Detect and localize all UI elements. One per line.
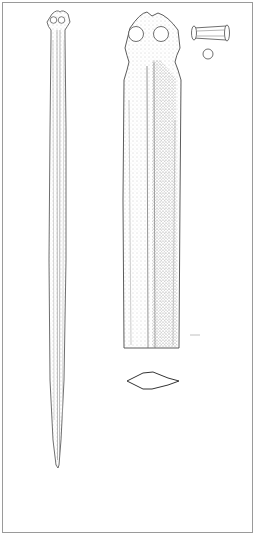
rivet-end-view: [203, 49, 213, 59]
rivet-right: [154, 27, 169, 42]
rivet-head: [192, 26, 197, 40]
rivet-left: [129, 27, 144, 42]
illustration-plate: [0, 0, 261, 544]
full-blade-view: [47, 11, 70, 468]
blade-cross-section: [127, 372, 179, 389]
rivet-left: [50, 17, 57, 24]
rivet-right: [58, 17, 65, 24]
hilt-detail-view: [123, 12, 181, 348]
rivet-head: [225, 25, 230, 41]
rivet-side-view: [192, 25, 230, 41]
blade-outline: [47, 11, 70, 468]
rivet-shank: [194, 26, 226, 40]
